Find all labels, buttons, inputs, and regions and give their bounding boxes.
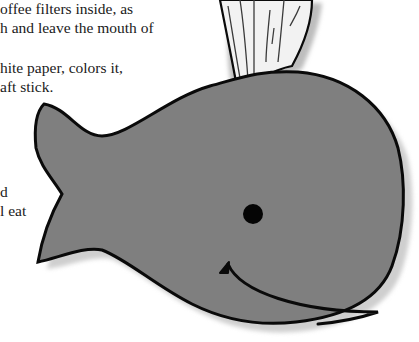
whale-eye-icon xyxy=(243,204,263,224)
whale-body xyxy=(35,72,403,324)
whale-illustration xyxy=(0,0,419,342)
